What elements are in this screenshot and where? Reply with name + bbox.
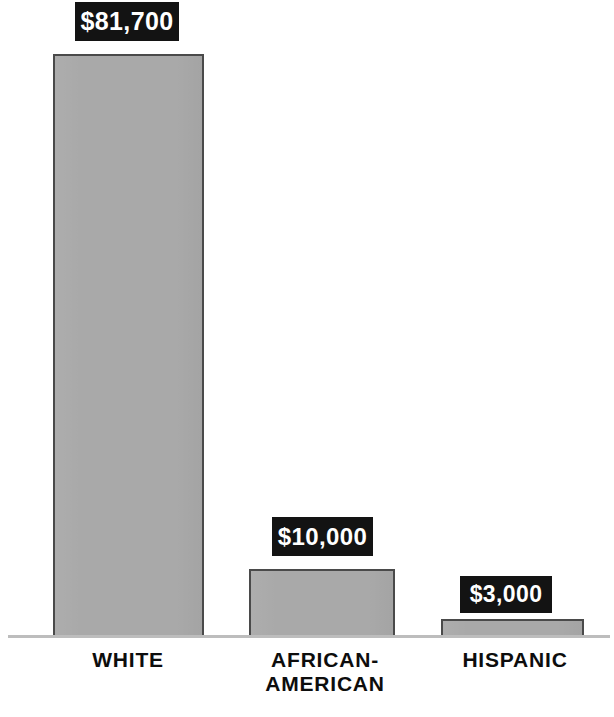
category-label-line1: AFRICAN- bbox=[271, 648, 379, 671]
bar-sheen bbox=[55, 56, 202, 637]
category-label-hispanic: HISPANIC bbox=[425, 648, 605, 672]
bar-sheen bbox=[251, 571, 393, 637]
category-label-line1: WHITE bbox=[92, 648, 164, 671]
category-label-white: WHITE bbox=[38, 648, 218, 672]
value-label-african-american: $10,000 bbox=[272, 517, 373, 556]
category-label-line1: HISPANIC bbox=[462, 648, 567, 671]
category-label-line2: AMERICAN bbox=[235, 672, 415, 696]
clipped-footnote-strip bbox=[0, 708, 614, 717]
bar-african-american bbox=[249, 569, 395, 637]
value-label-hispanic: $3,000 bbox=[460, 576, 552, 613]
value-label-white: $81,700 bbox=[75, 2, 179, 41]
category-label-african-american: AFRICAN- AMERICAN bbox=[235, 648, 415, 695]
x-axis-baseline bbox=[8, 635, 610, 638]
bar-white bbox=[53, 54, 204, 637]
bar-chart-figure: $81,700 $10,000 $3,000 WHITE AFRICAN- AM… bbox=[0, 0, 614, 717]
plot-area: $81,700 $10,000 $3,000 bbox=[0, 0, 614, 640]
